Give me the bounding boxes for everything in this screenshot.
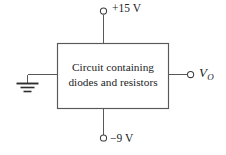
output-voltage-label: VO <box>199 66 213 79</box>
terminal-output-icon <box>188 71 194 77</box>
negative-supply-label: −9 V <box>110 133 133 145</box>
terminal-negative-supply-icon <box>100 135 106 141</box>
circuit-block-label-line-2: diodes and resistors <box>58 75 168 90</box>
output-voltage-symbol: V <box>199 65 207 80</box>
terminal-positive-supply-icon <box>100 8 106 14</box>
output-voltage-subscript: O <box>207 72 214 82</box>
circuit-block-label: Circuit containing diodes and resistors <box>58 60 168 90</box>
positive-supply-label: +15 V <box>112 3 141 15</box>
circuit-block-diagram: Circuit containing diodes and resistors … <box>0 0 226 155</box>
circuit-block-label-line-1: Circuit containing <box>58 60 168 75</box>
